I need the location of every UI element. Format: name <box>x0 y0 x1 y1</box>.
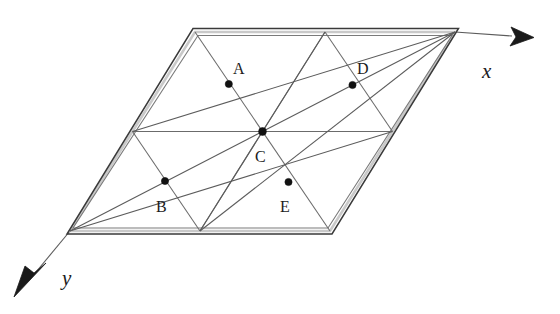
x-axis-line <box>455 32 512 36</box>
y-axis-label: y <box>60 266 72 290</box>
point-dot-A <box>225 80 232 87</box>
point-labels-group: A D C B E <box>156 60 369 215</box>
point-dot-E <box>285 178 292 185</box>
diagonal-center-to-bottom-mid <box>200 132 263 232</box>
point-label-C: C <box>255 148 266 165</box>
parallelogram-figure: A D C B E x y <box>0 0 560 314</box>
figure-canvas: A D C B E x y <box>0 0 560 314</box>
marked-points-group <box>161 80 356 185</box>
x-axis-arrow-icon <box>510 27 534 46</box>
y-axis-arrow-icon <box>14 263 46 297</box>
axes-group <box>14 27 534 297</box>
point-label-A: A <box>233 60 245 77</box>
x-axis-label: x <box>481 59 492 83</box>
axis-labels-group: x y <box>60 59 492 290</box>
point-label-E: E <box>280 198 290 215</box>
diagonal-top-mid-to-center <box>263 32 326 132</box>
point-label-B: B <box>156 198 167 215</box>
point-dot-C <box>259 128 267 136</box>
point-dot-B <box>161 177 168 184</box>
point-dot-D <box>349 81 356 88</box>
point-label-D: D <box>357 60 369 77</box>
